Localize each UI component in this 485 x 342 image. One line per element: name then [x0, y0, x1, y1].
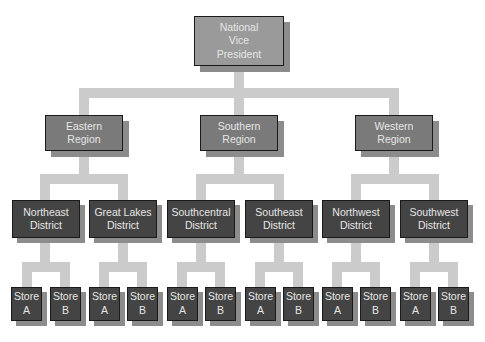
connector-d5-a [332, 262, 342, 287]
node-label: Southcentral District [172, 206, 231, 232]
connector-d6-b [448, 262, 458, 287]
node-northwest-district: Northwest District [322, 200, 390, 238]
node-label: National Vice President [217, 21, 261, 60]
node-store: Store B [283, 287, 314, 321]
node-label: Southern Region [218, 120, 261, 146]
node-label: Store A [170, 290, 195, 317]
connector-northwest-drop [351, 174, 361, 200]
connector-southern-drop [234, 88, 244, 115]
node-southeast-district: Southeast District [245, 200, 313, 238]
node-store: Store B [205, 287, 236, 321]
node-label: Store A [325, 290, 350, 317]
node-label: Store B [363, 290, 388, 317]
connector-northeast-drop [40, 174, 50, 200]
node-label: Store B [286, 290, 311, 317]
node-southern-region: Southern Region [200, 115, 278, 151]
node-label: Great Lakes District [94, 206, 151, 232]
connector-d3-b [215, 262, 225, 287]
node-eastern-region: Eastern Region [45, 115, 123, 151]
connector-southcentral-drop [196, 174, 206, 200]
node-store: Store B [127, 287, 158, 321]
connector-d1-a [22, 262, 32, 287]
node-label: Store A [403, 290, 428, 317]
node-southcentral-district: Southcentral District [167, 200, 235, 238]
node-northeast-district: Northeast District [12, 200, 80, 238]
node-label: Southeast District [255, 206, 302, 232]
connector-eastern-drop [79, 88, 89, 115]
node-western-region: Western Region [355, 115, 433, 151]
connector-d4-a [255, 262, 265, 287]
connector-western-bar [351, 174, 439, 184]
connector-d1-b [60, 262, 70, 287]
node-store: Store B [438, 287, 469, 321]
connector-southern-bar [196, 174, 284, 184]
node-national-vice-president: National Vice President [194, 16, 284, 66]
connector-d3-a [177, 262, 187, 287]
node-label: Store A [248, 290, 273, 317]
connector-d2-a [99, 262, 109, 287]
node-label: Eastern Region [66, 120, 102, 146]
node-label: Store B [208, 290, 233, 317]
node-store: Store B [50, 287, 81, 321]
node-label: Store A [92, 290, 117, 317]
connector-southwest-drop [429, 174, 439, 200]
connector-western-drop [389, 88, 399, 115]
node-label: Store B [53, 290, 78, 317]
node-store: Store A [400, 287, 431, 321]
node-store: Store A [322, 287, 353, 321]
node-southwest-district: Southwest District [400, 200, 468, 238]
connector-d2-b [137, 262, 147, 287]
node-label: Store B [130, 290, 155, 317]
node-label: Store A [14, 290, 39, 317]
node-great-lakes-district: Great Lakes District [89, 200, 157, 238]
node-store: Store A [11, 287, 42, 321]
connector-greatlakes-drop [118, 174, 128, 200]
connector-eastern-bar [40, 174, 128, 184]
connector-d4-b [293, 262, 303, 287]
node-store: Store B [360, 287, 391, 321]
node-label: Western Region [375, 120, 414, 146]
node-store: Store A [89, 287, 120, 321]
connector-southeast-drop [274, 174, 284, 200]
node-store: Store A [245, 287, 276, 321]
node-label: Northeast District [23, 206, 69, 232]
connector-d6-a [410, 262, 420, 287]
node-store: Store A [167, 287, 198, 321]
connector-d5-b [370, 262, 380, 287]
node-label: Northwest District [332, 206, 379, 232]
node-label: Store B [441, 290, 466, 317]
node-label: Southwest District [409, 206, 458, 232]
